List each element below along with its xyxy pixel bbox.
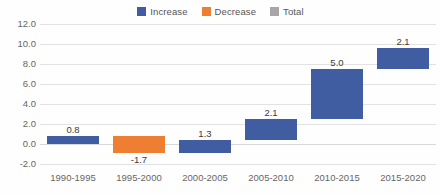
bar-value-label: 0.8 (40, 124, 106, 135)
bar-group: 2.1 (370, 24, 436, 164)
bar-decrease[interactable] (113, 136, 166, 153)
bar-group: -1.7 (106, 24, 172, 164)
bar-increase[interactable] (311, 69, 364, 119)
legend-swatch-icon (270, 7, 279, 16)
legend-item-label: Total (283, 7, 304, 17)
gridline (40, 164, 436, 165)
y-axis-tick-label: 0.0 (0, 139, 36, 149)
bar-increase[interactable] (377, 48, 430, 69)
legend-item-total[interactable]: Total (270, 7, 304, 17)
legend-swatch-icon (137, 7, 146, 16)
x-axis-tick-label: 2015-2020 (370, 172, 436, 188)
x-axis-tick-label: 1990-1995 (40, 172, 106, 188)
bar-value-label: 2.1 (370, 36, 436, 47)
x-axis-tick-label: 2010-2015 (304, 172, 370, 188)
bar-value-label: 2.1 (238, 107, 304, 118)
chart-legend: IncreaseDecreaseTotal (0, 5, 441, 18)
bar-group: 2.1 (238, 24, 304, 164)
x-axis-tick-label: 2000-2005 (172, 172, 238, 188)
y-axis-tick-label: 12.0 (0, 19, 36, 29)
y-axis-tick-label: 2.0 (0, 119, 36, 129)
bar-series: 0.8-1.71.32.15.02.1 (40, 24, 436, 164)
legend-item-label: Increase (150, 7, 187, 17)
bar-value-label: 5.0 (304, 57, 370, 68)
legend-item-increase[interactable]: Increase (137, 7, 187, 17)
legend-item-decrease[interactable]: Decrease (202, 7, 256, 17)
bar-value-label: -1.7 (106, 154, 172, 165)
waterfall-chart: IncreaseDecreaseTotal 12.010.08.06.04.02… (0, 0, 441, 195)
x-axis-tick-label: 2005-2010 (238, 172, 304, 188)
y-axis: 12.010.08.06.04.02.00.0-2.0 (0, 24, 36, 164)
bar-value-label: 1.3 (172, 128, 238, 139)
legend-item-label: Decrease (215, 7, 256, 17)
bar-group: 5.0 (304, 24, 370, 164)
bar-increase[interactable] (179, 140, 232, 153)
y-axis-tick-label: -2.0 (0, 159, 36, 169)
bar-group: 0.8 (40, 24, 106, 164)
plot-area: 0.8-1.71.32.15.02.1 (40, 24, 436, 164)
x-axis-tick-label: 1995-2000 (106, 172, 172, 188)
bar-increase[interactable] (245, 119, 298, 140)
y-axis-tick-label: 8.0 (0, 59, 36, 69)
y-axis-tick-label: 6.0 (0, 79, 36, 89)
legend-swatch-icon (202, 7, 211, 16)
bar-group: 1.3 (172, 24, 238, 164)
y-axis-tick-label: 10.0 (0, 39, 36, 49)
y-axis-tick-label: 4.0 (0, 99, 36, 109)
bar-increase[interactable] (47, 136, 100, 144)
x-axis: 1990-19951995-20002000-20052005-20102010… (40, 172, 436, 188)
